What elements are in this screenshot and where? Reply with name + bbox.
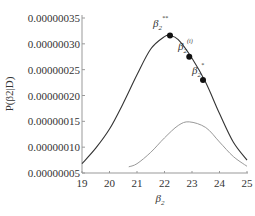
x-tick-label: 21: [132, 177, 143, 189]
y-tick-label: 0.00000015: [28, 115, 81, 127]
posterior-chart: 0.000000050.000000100.000000150.00000020…: [0, 0, 255, 216]
y-tick-label: 0.00000030: [28, 38, 81, 50]
x-tick-label: 22: [159, 177, 170, 189]
y-tick-label: 0.00000035: [28, 12, 81, 24]
x-tick-label: 25: [242, 177, 254, 189]
y-tick-label: 0.00000020: [28, 90, 81, 102]
annotation-beta2-i: β2(i): [177, 38, 193, 55]
y-ticks: 0.000000050.000000100.000000150.00000020…: [28, 12, 85, 179]
y-tick-label: 0.00000010: [28, 141, 81, 153]
annotation-point-marker: [167, 33, 173, 39]
y-tick-label: 0.00000025: [28, 64, 81, 76]
x-axis-label: β2: [155, 192, 165, 207]
x-ticks: 19202122232425: [77, 171, 254, 189]
y-axis-label: P(β2|D): [3, 76, 16, 111]
x-tick-label: 23: [187, 177, 199, 189]
annotation-point-marker: [186, 54, 192, 60]
prior-curve: [129, 122, 247, 167]
x-tick-label: 19: [77, 177, 89, 189]
x-tick-label: 24: [214, 177, 226, 189]
y-tick-label: 0.00000005: [28, 167, 81, 179]
annotation-beta2-doublestar: β2**: [152, 15, 168, 32]
x-tick-label: 20: [104, 177, 116, 189]
